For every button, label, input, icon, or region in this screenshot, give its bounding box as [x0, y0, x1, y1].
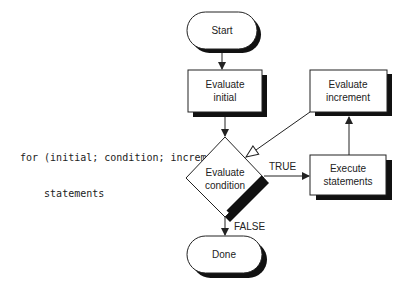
init-label-1: Evaluate — [206, 79, 245, 90]
cond-label-2: condition — [205, 180, 245, 191]
exec-label-1: Execute — [330, 163, 367, 174]
flowchart: Start Evaluate initial Evaluate conditio… — [0, 0, 412, 294]
evaluate-initial-node: Evaluate initial — [188, 70, 267, 117]
done-node: Done — [187, 236, 267, 278]
cond-label-1: Evaluate — [206, 167, 245, 178]
incr-label-2: increment — [326, 92, 370, 103]
start-label: Start — [211, 25, 232, 36]
exec-label-2: statements — [324, 176, 373, 187]
start-node: Start — [187, 12, 261, 53]
evaluate-increment-node: Evaluate increment — [310, 70, 392, 116]
edge-incr-cond — [246, 112, 310, 157]
init-label-2: initial — [214, 92, 237, 103]
execute-statements-node: Execute statements — [310, 155, 392, 200]
true-label: TRUE — [269, 161, 297, 172]
done-label: Done — [212, 249, 236, 260]
false-label: FALSE — [234, 221, 265, 232]
incr-label-1: Evaluate — [329, 79, 368, 90]
